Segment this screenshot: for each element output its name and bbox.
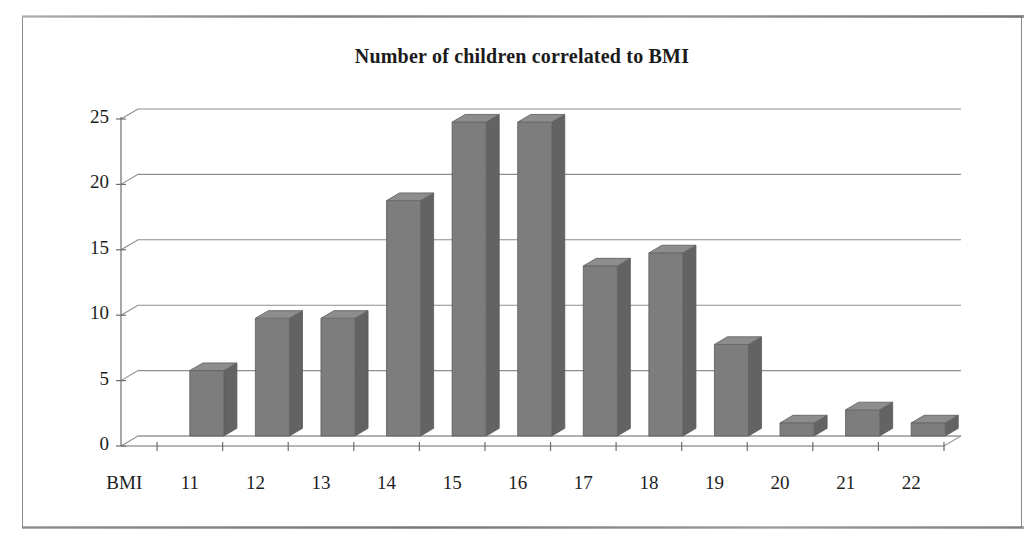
x-axis-label-20: 20 xyxy=(747,472,813,494)
bar-19 xyxy=(714,337,761,436)
y-axis-label-20: 20 xyxy=(63,171,109,193)
x-axis-label-bmi: BMI xyxy=(91,472,157,494)
x-axis-label-17: 17 xyxy=(551,472,617,494)
plot-area: 0510152025 BMI111213141516171819202122 xyxy=(23,17,1023,529)
x-axis-label-16: 16 xyxy=(485,472,551,494)
bar-12 xyxy=(255,311,302,436)
bar-11 xyxy=(190,363,237,436)
x-axis-label-14: 14 xyxy=(354,472,420,494)
y-axis-label-15: 15 xyxy=(63,237,109,259)
bar-17 xyxy=(583,258,630,436)
bar-13 xyxy=(321,311,368,436)
chart-border-frame: Number of children correlated to BMI 051… xyxy=(22,16,1022,528)
x-axis-label-11: 11 xyxy=(157,472,223,494)
y-axis-label-10: 10 xyxy=(63,302,109,324)
bar-18 xyxy=(649,245,696,436)
x-axis-label-15: 15 xyxy=(419,472,485,494)
y-axis-label-5: 5 xyxy=(63,368,109,390)
floor-right-edge xyxy=(944,436,961,446)
y-axis-label-0: 0 xyxy=(63,433,109,455)
x-axis-label-22: 22 xyxy=(878,472,944,494)
bar-15 xyxy=(452,114,499,436)
x-axis-label-13: 13 xyxy=(288,472,354,494)
bar-21 xyxy=(846,402,893,436)
bar-16 xyxy=(518,114,565,436)
x-axis-label-12: 12 xyxy=(223,472,289,494)
bar-14 xyxy=(387,193,434,436)
gridline-0 xyxy=(121,436,961,446)
bar-20 xyxy=(780,415,827,436)
x-axis-label-19: 19 xyxy=(682,472,748,494)
x-axis-label-18: 18 xyxy=(616,472,682,494)
x-axis-label-21: 21 xyxy=(813,472,879,494)
chart-svg xyxy=(23,17,1023,529)
bar-22 xyxy=(911,415,958,436)
y-axis-label-25: 25 xyxy=(63,106,109,128)
